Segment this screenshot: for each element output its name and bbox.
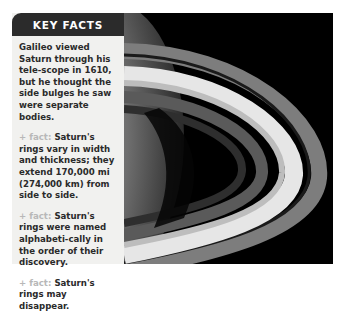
intro-text: Galileo viewed Saturn through his tele-s… — [19, 42, 118, 123]
saturn-rings-image — [124, 13, 333, 264]
fact-tag: + fact: — [19, 211, 51, 221]
key-facts-body: Galileo viewed Saturn through his tele-s… — [12, 36, 124, 312]
fact-item: + fact: Saturn's rings vary in width and… — [19, 132, 118, 202]
fact-tag: + fact: — [19, 132, 51, 142]
key-facts-header: KEY FACTS — [12, 13, 124, 36]
key-facts-title: KEY FACTS — [33, 19, 103, 31]
fact-item: + fact: Saturn's rings may disappear. — [19, 278, 118, 312]
fact-tag: + fact: — [19, 278, 51, 288]
fact-item: + fact: Saturn's rings were named alphab… — [19, 211, 118, 269]
saturn-rings-photo — [124, 13, 333, 264]
fact-text: Saturn's rings vary in width and thickne… — [19, 132, 114, 200]
key-facts-panel: KEY FACTS Galileo viewed Saturn through … — [12, 13, 124, 264]
